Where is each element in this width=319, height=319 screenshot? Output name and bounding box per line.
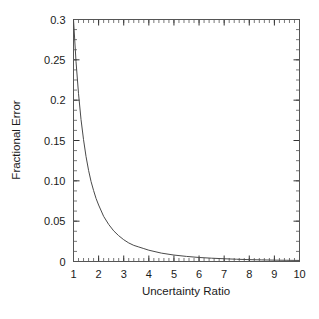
x-axis-title: Uncertainty Ratio [142, 285, 230, 297]
x-tick-label: 4 [146, 268, 152, 280]
x-tick-label: 10 [293, 268, 305, 280]
x-tick-label: 5 [171, 268, 177, 280]
y-tick-label: 0.2 [50, 94, 65, 106]
x-tick-label: 7 [221, 268, 227, 280]
x-tick-label: 6 [196, 268, 202, 280]
x-tick-label: 8 [246, 268, 252, 280]
x-tick-label: 2 [96, 268, 102, 280]
y-tick-label: 0.05 [44, 215, 65, 227]
y-axis-title: Fractional Error [10, 100, 22, 179]
x-tick-label: 1 [70, 268, 76, 280]
y-tick-label: 0 [59, 256, 65, 268]
x-tick-label: 3 [121, 268, 127, 280]
chart-figure: 12345678910 00.050.100.150.20.250.3 Unce… [0, 0, 319, 319]
y-tick-label: 0.25 [44, 54, 65, 66]
x-tick-label: 9 [271, 268, 277, 280]
y-tick-label: 0.3 [50, 14, 65, 26]
chart-canvas: 12345678910 00.050.100.150.20.250.3 Unce… [0, 0, 319, 319]
y-tick-label: 0.10 [44, 175, 65, 187]
y-tick-label: 0.15 [44, 135, 65, 147]
